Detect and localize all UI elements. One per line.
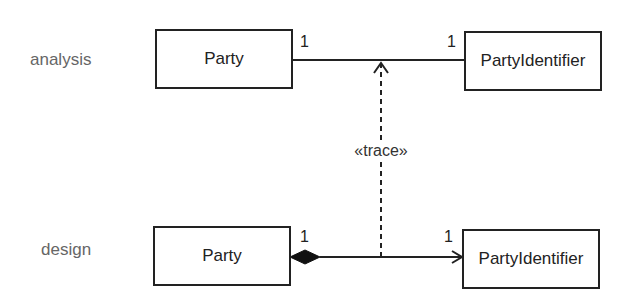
class-name: Party — [204, 49, 244, 69]
design-right-multiplicity: 1 — [444, 228, 453, 246]
level-label-analysis: analysis — [30, 50, 91, 70]
class-name: PartyIdentifier — [481, 51, 586, 71]
design-party-class[interactable]: Party — [153, 226, 291, 286]
class-name: PartyIdentifier — [479, 249, 584, 269]
design-left-multiplicity: 1 — [300, 228, 309, 246]
level-label-design: design — [41, 240, 91, 260]
analysis-left-multiplicity: 1 — [300, 33, 309, 51]
analysis-right-multiplicity: 1 — [447, 33, 456, 51]
analysis-partyidentifier-class[interactable]: PartyIdentifier — [464, 31, 602, 91]
design-partyidentifier-class[interactable]: PartyIdentifier — [462, 229, 600, 289]
class-name: Party — [202, 246, 242, 266]
analysis-party-class[interactable]: Party — [155, 29, 293, 89]
trace-stereotype-label: «trace» — [354, 140, 407, 162]
composition-diamond-icon — [290, 250, 320, 264]
